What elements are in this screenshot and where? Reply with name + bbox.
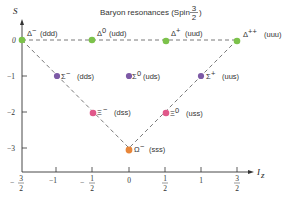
title-text: Baryon resonances (Spin	[100, 8, 190, 17]
decuplet-triangle	[22, 40, 237, 148]
minus-sign: −	[10, 178, 14, 187]
title-spin-numerator: 3	[192, 4, 197, 13]
particle-quarks: (ddd)	[40, 29, 58, 38]
y-tick-label: −3	[7, 144, 15, 153]
particle-charge: −	[32, 26, 37, 35]
particle-delta-minus: Δ − (ddd)	[19, 26, 58, 43]
particle-charge: 0	[102, 26, 106, 35]
y-tick-label: −2	[7, 108, 15, 117]
particle-delta-plus-plus: Δ ++ (uuu)	[234, 27, 282, 44]
particle-quarks: (uuu)	[264, 30, 282, 39]
particle-sigma-zero: Σ 0 (uds)	[126, 69, 161, 81]
x-tick-label-three-halves: 3 2	[234, 174, 240, 193]
x-tick-label-one-half: 1 2	[162, 174, 168, 193]
particle-quarks: (uss)	[186, 109, 203, 118]
particle-quarks: (dss)	[114, 108, 131, 117]
denominator: 2	[90, 184, 94, 193]
x-axis-arrow-icon	[248, 170, 254, 174]
particle-sigma-plus: Σ + (uus)	[198, 69, 240, 81]
particle-omega-minus: Ω − (sss)	[126, 142, 166, 154]
y-axis-label: S	[13, 6, 18, 16]
numerator: 3	[19, 174, 23, 183]
particle-charge: −	[66, 69, 71, 78]
particle-charge: −	[103, 105, 108, 114]
particle-quarks: (sss)	[149, 145, 166, 154]
numerator: 1	[90, 174, 94, 183]
denominator: 2	[19, 184, 23, 193]
x-axis-label-subscript: z	[260, 170, 265, 180]
particle-dot	[163, 110, 170, 117]
particle-xi-zero: Ξ 0 (uss)	[163, 106, 203, 118]
particle-dot	[234, 38, 241, 45]
right-edge	[129, 40, 237, 148]
minus-sign: −	[80, 178, 84, 187]
particle-quarks: (uds)	[143, 72, 161, 81]
particle-charge: −	[140, 142, 145, 151]
particle-symbol: Ξ	[97, 108, 102, 117]
particle-charge: +	[176, 26, 181, 35]
particle-charge: 0	[137, 69, 141, 78]
x-tick-label: −1	[49, 176, 57, 185]
particle-xi-minus: Ξ − (dss)	[90, 105, 131, 117]
particle-dot	[163, 38, 170, 45]
denominator: 2	[163, 184, 167, 193]
particle-dot	[90, 110, 97, 117]
particle-quarks: (uus)	[222, 72, 240, 81]
y-tick-label: 0	[12, 36, 16, 45]
y-axis: S 0 −1 −2 −3	[7, 6, 27, 172]
title-spin-denominator: 2	[192, 13, 197, 22]
y-tick-label: −1	[7, 72, 15, 81]
particle-dot	[126, 147, 133, 154]
x-tick-label: 0	[127, 176, 131, 185]
denominator: 2	[235, 184, 239, 193]
y-axis-arrow-icon	[20, 19, 24, 25]
particle-delta-zero: Δ 0 (udd)	[89, 26, 127, 43]
particle-charge: 0	[175, 106, 179, 115]
left-edge	[22, 40, 129, 148]
particle-quarks: (dds)	[77, 72, 95, 81]
particle-delta-plus: Δ + (uud)	[163, 26, 203, 44]
particles: Δ − (ddd) Δ 0 (udd) Δ + (uud) Δ ++ (uuu)…	[19, 26, 282, 154]
particle-charge: ++	[248, 27, 257, 36]
particle-dot	[19, 37, 26, 44]
particle-dot	[54, 73, 60, 79]
title-close-paren: )	[199, 8, 202, 17]
particle-quarks: (udd)	[109, 29, 127, 38]
particle-sigma-minus: Σ − (dds)	[54, 69, 95, 81]
particle-quarks: (uud)	[185, 29, 203, 38]
baryon-decuplet-diagram: Baryon resonances (Spin 3 2 ) S 0 −1 −2 …	[0, 0, 297, 201]
x-axis: I z − 3 2 −1 − 1 2 0 1 2	[10, 167, 265, 193]
numerator: 3	[235, 174, 239, 183]
x-tick-label: 1	[199, 176, 203, 185]
x-tick-label-neg-three-halves: − 3 2	[10, 174, 24, 193]
particle-charge: +	[211, 69, 216, 78]
diagram-title: Baryon resonances (Spin 3 2 )	[100, 4, 202, 22]
particle-dot	[198, 73, 204, 79]
numerator: 1	[163, 174, 167, 183]
particle-dot	[89, 37, 96, 44]
x-tick-label-neg-one-half: − 1 2	[80, 174, 95, 193]
